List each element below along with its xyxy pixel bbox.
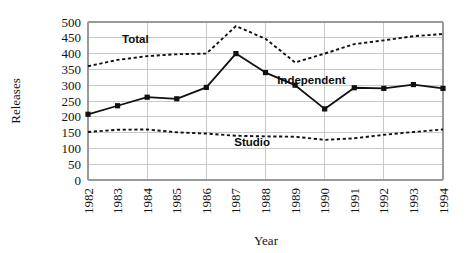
data-point-marker-independent xyxy=(115,103,120,108)
y-tick-label: 150 xyxy=(62,125,82,140)
y-tick-label: 250 xyxy=(62,94,82,109)
data-point-marker-independent xyxy=(381,86,386,91)
y-tick-label: 50 xyxy=(68,157,81,172)
x-tick-label: 1991 xyxy=(347,188,362,214)
series-label-studio: Studio xyxy=(234,136,270,148)
y-tick-label: 100 xyxy=(62,141,82,156)
y-tick-label: 200 xyxy=(62,109,82,124)
y-tick-label: 300 xyxy=(62,78,82,93)
data-point-marker-independent xyxy=(352,85,357,90)
data-point-marker-independent xyxy=(145,95,150,100)
x-tick-label: 1988 xyxy=(258,188,273,214)
x-tick-label: 1992 xyxy=(376,188,391,214)
data-point-marker-independent xyxy=(411,82,416,87)
data-point-marker-independent xyxy=(322,106,327,111)
x-tick-label: 1990 xyxy=(317,188,332,214)
data-point-marker-independent xyxy=(174,96,179,101)
chart-canvas: 050100150200250300350400450500 198219831… xyxy=(0,0,472,253)
y-tick-label: 500 xyxy=(62,15,82,30)
y-tick-label: 450 xyxy=(62,30,82,45)
y-tick-label: 400 xyxy=(62,46,82,61)
y-axis-title: Releases xyxy=(8,78,23,123)
x-tick-label: 1986 xyxy=(199,188,214,215)
x-tick-label: 1987 xyxy=(228,188,243,215)
x-tick-label: 1984 xyxy=(140,188,155,215)
x-tick-label: 1994 xyxy=(436,188,451,215)
x-axis-title: Year xyxy=(254,233,279,248)
data-point-marker-independent xyxy=(440,86,445,91)
x-tick-label: 1982 xyxy=(81,188,96,214)
data-point-marker-independent xyxy=(204,85,209,90)
releases-by-year-chart: 050100150200250300350400450500 198219831… xyxy=(0,0,472,253)
x-tick-label: 1989 xyxy=(288,188,303,214)
y-tick-label: 0 xyxy=(75,173,82,188)
x-tick-label: 1993 xyxy=(406,188,421,214)
data-point-marker-independent xyxy=(233,51,238,56)
data-point-marker-independent xyxy=(85,112,90,117)
data-point-marker-independent xyxy=(263,70,268,75)
x-tick-label: 1983 xyxy=(110,188,125,214)
y-tick-label: 350 xyxy=(62,62,82,77)
x-tick-label: 1985 xyxy=(169,188,184,214)
series-label-independent: Independent xyxy=(277,74,346,86)
series-label-total: Total xyxy=(122,33,149,45)
